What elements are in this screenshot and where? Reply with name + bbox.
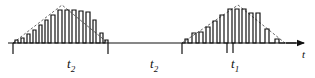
burst-1-trace (13, 10, 108, 43)
interval-label-t1-subscript: 1 (235, 64, 240, 74)
interval-label-t2-first-subscript: 2 (71, 64, 76, 74)
interval-label-t2-second: t2 (150, 56, 159, 74)
interval-label-t2-second-subscript: 2 (154, 64, 159, 74)
burst-2-trace (182, 9, 285, 43)
axis-label-t: t (302, 48, 306, 60)
time-axis-group: t (286, 40, 306, 60)
interval-label-t2-first: t2 (67, 56, 76, 74)
pulse-waveform-figure: t t2t2t1 (0, 0, 315, 78)
interval-label-t1: t1 (231, 56, 239, 74)
tick-mark-group (13, 43, 233, 54)
envelope-group (13, 5, 285, 43)
waveform-diagram: t t2t2t1 (0, 0, 315, 78)
interval-label-group: t2t2t1 (67, 56, 239, 74)
signal-trace-group (8, 9, 296, 43)
axis-arrow-head (297, 40, 305, 46)
